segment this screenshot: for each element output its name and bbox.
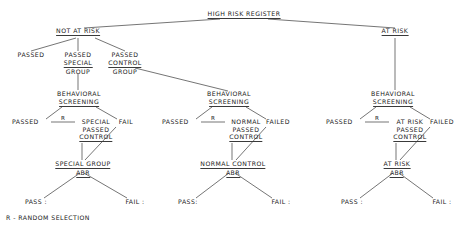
node-passed-special-group[interactable]: PASSED SPECIAL GROUP — [64, 51, 93, 75]
node-line-1: BEHAVIORAL — [57, 90, 101, 98]
node-line-1: PASSED — [64, 51, 93, 59]
node-behavioral-screening-atrisk[interactable]: BEHAVIORAL SCREENING — [371, 90, 415, 107]
node-line-1: NORMAL — [229, 118, 262, 126]
node-passed-only[interactable]: PASSED — [18, 51, 45, 59]
edge-root-to-at-risk — [268, 19, 395, 28]
node-label: HIGH RISK REGISTER — [208, 10, 281, 19]
node-not-at-risk[interactable]: NOT AT RISK — [56, 27, 100, 36]
node-line-3: CONTROL — [393, 133, 426, 142]
edge-root-to-not-at-risk — [84, 19, 220, 28]
edge-control-group-to-screening — [135, 68, 228, 91]
node-label: FAILED — [430, 118, 454, 126]
node-line-3: CONTROL — [229, 133, 262, 142]
node-label: PASS : — [341, 198, 363, 206]
label-special-pass-result[interactable]: PASS : — [25, 198, 47, 206]
node-line-2: PASSED — [393, 126, 426, 134]
node-label: FAIL : — [125, 198, 144, 206]
edge-notatrisk-to-passed — [31, 38, 76, 51]
node-label: PASSED — [18, 51, 45, 59]
random-selection-mark-atrisk: R — [375, 115, 379, 121]
node-line-2: PASSED — [229, 126, 262, 134]
node-line-2: ABR — [226, 169, 240, 178]
random-selection-mark-special: R — [61, 115, 65, 121]
label-passed-normal[interactable]: PASSED — [162, 118, 189, 126]
node-line-3: CONTROL — [79, 133, 112, 142]
node-label: PASS: — [178, 198, 198, 206]
node-normal-control-abr[interactable]: NORMAL CONTROL ABR — [200, 160, 265, 178]
node-label: FAILED — [266, 118, 290, 126]
label-atrisk-fail-result[interactable]: FAIL : — [432, 198, 451, 206]
node-behavioral-screening-special[interactable]: BEHAVIORAL SCREENING — [57, 90, 101, 107]
high-risk-register-flowchart: HIGH RISK REGISTER NOT AT RISK AT RISK P… — [0, 0, 467, 227]
label-passed-atrisk[interactable]: PASSED — [326, 118, 353, 126]
label-atrisk-pass-result[interactable]: PASS : — [341, 198, 363, 206]
node-passed-control-group[interactable]: PASSED CONTROL GROUP — [108, 51, 141, 75]
node-line-1: SPECIAL GROUP — [55, 160, 110, 169]
node-label: NOT AT RISK — [56, 27, 100, 36]
node-label: AT RISK — [382, 27, 409, 36]
node-line-1: AT RISK — [384, 160, 411, 169]
node-line-2: SPECIAL — [64, 59, 93, 68]
label-normal-fail-result[interactable]: FAIL : — [271, 198, 290, 206]
label-fail-special[interactable]: FAIL — [119, 118, 133, 126]
node-line-2: SCREENING — [373, 98, 413, 107]
node-label: FAIL : — [432, 198, 451, 206]
node-label: PASSED — [326, 118, 353, 126]
node-special-passed-control[interactable]: SPECIAL PASSED CONTROL — [79, 118, 112, 142]
edge-notatrisk-to-passed-control — [95, 38, 125, 51]
node-line-2: ABR — [76, 169, 90, 178]
node-behavioral-screening-normal[interactable]: BEHAVIORAL SCREENING — [207, 90, 251, 107]
node-label: PASS : — [25, 198, 47, 206]
legend-text: R - RANDOM SELECTION — [6, 214, 90, 221]
node-high-risk-register[interactable]: HIGH RISK REGISTER — [208, 10, 281, 19]
node-label: FAIL : — [271, 198, 290, 206]
node-label: PASSED — [12, 118, 39, 126]
node-line-3: GROUP — [108, 68, 141, 76]
node-line-2: PASSED — [79, 126, 112, 134]
random-selection-mark-normal: R — [211, 115, 215, 121]
node-special-group-abr[interactable]: SPECIAL GROUP ABR — [55, 160, 110, 178]
node-line-2: ABR — [390, 169, 404, 178]
node-line-1: AT RISK — [393, 118, 426, 126]
legend-random-selection: R - RANDOM SELECTION — [6, 214, 90, 221]
label-failed-normal[interactable]: FAILED — [266, 118, 290, 126]
node-line-3: GROUP — [64, 68, 93, 76]
label-special-fail-result[interactable]: FAIL : — [125, 198, 144, 206]
edge-screening2-to-passed — [196, 107, 212, 119]
node-line-1: BEHAVIORAL — [207, 90, 251, 98]
node-label: R — [211, 115, 215, 121]
node-label: R — [375, 115, 379, 121]
node-line-1: NORMAL CONTROL — [200, 160, 265, 169]
label-passed-special[interactable]: PASSED — [12, 118, 39, 126]
node-line-1: PASSED — [108, 51, 141, 59]
node-line-1: BEHAVIORAL — [371, 90, 415, 98]
node-line-1: SPECIAL — [79, 118, 112, 126]
edge-screening1-to-passed — [46, 107, 62, 119]
node-label: PASSED — [162, 118, 189, 126]
label-failed-atrisk[interactable]: FAILED — [430, 118, 454, 126]
node-line-2: CONTROL — [108, 59, 141, 68]
node-label: R — [61, 115, 65, 121]
node-at-risk[interactable]: AT RISK — [382, 27, 409, 36]
node-atrisk-abr[interactable]: AT RISK ABR — [384, 160, 411, 178]
node-line-2: SCREENING — [209, 98, 249, 107]
node-label: FAIL — [119, 118, 133, 126]
node-normal-passed-control[interactable]: NORMAL PASSED CONTROL — [229, 118, 262, 142]
label-normal-pass-result[interactable]: PASS: — [178, 198, 198, 206]
edge-screening3-to-passed — [360, 107, 376, 119]
node-atrisk-passed-control[interactable]: AT RISK PASSED CONTROL — [393, 118, 426, 142]
node-line-2: SCREENING — [59, 98, 99, 107]
